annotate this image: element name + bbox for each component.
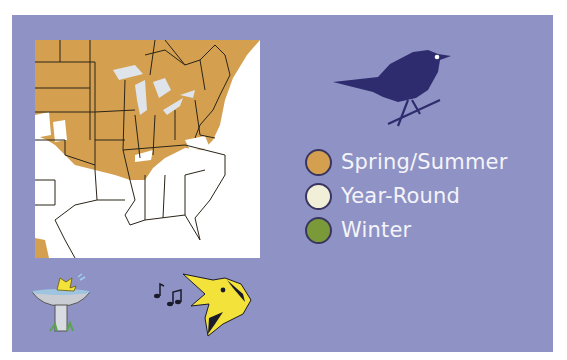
- bird-bath-icon: [30, 268, 92, 334]
- legend-label: Spring/Summer: [341, 150, 508, 174]
- legend-label: Winter: [341, 218, 411, 242]
- singing-bird-head-icon: [183, 272, 255, 338]
- swatch-winter: [305, 217, 332, 244]
- music-notes-icon: [152, 280, 186, 308]
- legend-label: Year-Round: [341, 184, 460, 208]
- swatch-year-round: [305, 183, 332, 210]
- legend: Spring/Summer Year-Round Winter: [305, 145, 508, 247]
- legend-item-year-round: Year-Round: [305, 179, 508, 213]
- range-map: [35, 40, 260, 258]
- bird-silhouette-icon: [328, 42, 458, 130]
- legend-item-spring-summer: Spring/Summer: [305, 145, 508, 179]
- range-map-graphic: [35, 40, 260, 258]
- legend-item-winter: Winter: [305, 213, 508, 247]
- swatch-spring-summer: [305, 149, 332, 176]
